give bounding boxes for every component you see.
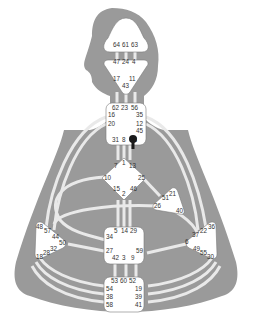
svg-text:53: 53	[111, 277, 119, 284]
svg-text:18: 18	[36, 253, 44, 260]
svg-text:17: 17	[113, 75, 121, 82]
svg-text:26: 26	[154, 202, 162, 209]
center-sacral: 5 14 29 34 27 59 42 3 9	[104, 227, 144, 264]
svg-text:2: 2	[122, 190, 126, 197]
center-throat: 62 23 56 16 35 20 12 45 31 8 33	[106, 103, 146, 145]
svg-text:31: 31	[112, 136, 120, 143]
svg-text:15: 15	[113, 185, 121, 192]
svg-text:63: 63	[131, 41, 139, 48]
svg-text:24: 24	[122, 58, 130, 65]
svg-text:40: 40	[176, 207, 184, 214]
svg-text:58: 58	[106, 301, 114, 308]
svg-text:39: 39	[135, 293, 143, 300]
svg-text:54: 54	[106, 285, 114, 292]
svg-text:16: 16	[108, 111, 116, 118]
svg-text:19: 19	[135, 285, 143, 292]
svg-text:35: 35	[136, 111, 144, 118]
svg-text:45: 45	[136, 127, 144, 134]
svg-text:50: 50	[59, 239, 67, 246]
svg-text:60: 60	[120, 277, 128, 284]
svg-text:41: 41	[135, 301, 143, 308]
svg-text:4: 4	[132, 58, 136, 65]
svg-text:37: 37	[192, 231, 200, 238]
svg-text:21: 21	[169, 190, 177, 197]
svg-text:36: 36	[208, 223, 216, 230]
svg-text:12: 12	[136, 120, 144, 127]
svg-text:32: 32	[50, 245, 58, 252]
svg-text:9: 9	[131, 254, 135, 261]
svg-text:51: 51	[162, 194, 170, 201]
svg-text:46: 46	[130, 185, 138, 192]
svg-text:1: 1	[122, 159, 126, 166]
bodygraph-diagram: 64 61 63 47 24 4 17 11 43 62 23 56 16 35…	[0, 0, 253, 336]
svg-text:61: 61	[122, 41, 130, 48]
svg-text:48: 48	[36, 223, 44, 230]
svg-text:13: 13	[129, 162, 137, 169]
svg-text:57: 57	[44, 227, 52, 234]
svg-text:5: 5	[114, 227, 118, 234]
svg-text:6: 6	[185, 238, 189, 245]
svg-text:3: 3	[122, 254, 126, 261]
svg-text:64: 64	[113, 41, 121, 48]
svg-text:30: 30	[207, 253, 215, 260]
svg-text:59: 59	[136, 247, 144, 254]
svg-text:56: 56	[131, 104, 139, 111]
svg-text:42: 42	[112, 254, 120, 261]
svg-text:25: 25	[138, 174, 146, 181]
svg-text:23: 23	[121, 104, 129, 111]
center-root: 53 60 52 54 19 38 39 58 41	[104, 277, 144, 312]
svg-text:8: 8	[122, 136, 126, 143]
svg-text:22: 22	[200, 227, 208, 234]
svg-text:62: 62	[112, 104, 120, 111]
svg-text:14: 14	[121, 227, 129, 234]
svg-text:7: 7	[114, 162, 118, 169]
svg-text:47: 47	[113, 58, 121, 65]
svg-text:20: 20	[108, 120, 116, 127]
svg-text:10: 10	[104, 174, 112, 181]
svg-text:28: 28	[43, 249, 51, 256]
svg-text:52: 52	[129, 277, 137, 284]
svg-text:38: 38	[106, 293, 114, 300]
svg-text:43: 43	[122, 82, 130, 89]
svg-text:11: 11	[129, 75, 136, 82]
svg-text:27: 27	[106, 247, 114, 254]
svg-text:34: 34	[106, 233, 114, 240]
svg-text:29: 29	[130, 227, 138, 234]
